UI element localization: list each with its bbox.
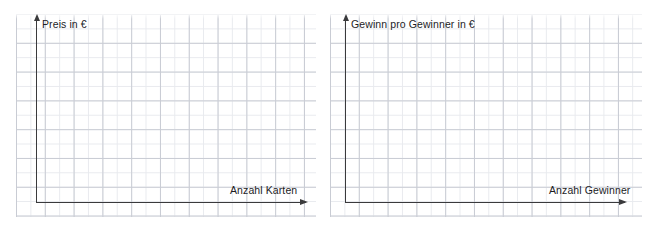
y-axis-line-right xyxy=(345,20,346,203)
y-axis-label-left: Preis in € xyxy=(42,18,87,30)
worksheet-canvas: Preis in € Anzahl Karten Gewinn pro Gewi… xyxy=(0,0,659,231)
x-axis-label-left: Anzahl Karten xyxy=(230,184,297,196)
y-axis-line-left xyxy=(36,20,37,203)
x-axis-line-right xyxy=(345,202,625,203)
x-axis-arrow-icon-left xyxy=(300,199,308,205)
x-axis-label-right: Anzahl Gewinner xyxy=(549,184,630,196)
y-axis-arrow-icon-left xyxy=(34,14,40,21)
y-axis-label-right: Gewinn pro Gewinner in € xyxy=(351,18,475,30)
y-axis-arrow-icon-right xyxy=(343,14,349,21)
x-axis-line-left xyxy=(36,202,306,203)
x-axis-arrow-icon-right xyxy=(619,199,627,205)
